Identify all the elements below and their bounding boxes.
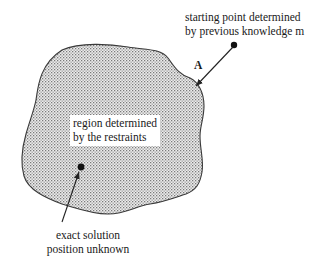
exact-solution-label-line2: position unknown bbox=[40, 242, 136, 256]
exact-solution-label: exact solution position unknown bbox=[40, 228, 136, 256]
exact-solution-label-line1: exact solution bbox=[40, 228, 136, 242]
region-label-line1: region determined bbox=[73, 116, 157, 130]
arrow-label-a: A bbox=[194, 58, 202, 72]
region-label-line2: by the restraints bbox=[73, 130, 157, 144]
exact-solution-dot bbox=[78, 164, 85, 171]
starting-point-label-line2: by previous knowledge m bbox=[185, 24, 304, 38]
starting-point-label: starting point determined by previous kn… bbox=[185, 10, 304, 38]
starting-point-label-line1: starting point determined bbox=[185, 10, 304, 24]
region-label: region determined by the restraints bbox=[70, 115, 160, 146]
starting-point-dot bbox=[231, 42, 237, 48]
